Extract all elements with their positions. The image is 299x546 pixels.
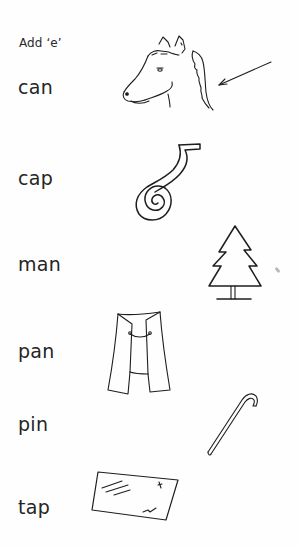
fir-tree-icon (199, 224, 269, 306)
word-pin: pin (18, 413, 48, 435)
worksheet-page: Add ‘e’ can (0, 0, 299, 546)
word-can: can (18, 76, 53, 98)
walking-cane-icon (200, 388, 270, 458)
glass-pane-icon (88, 470, 188, 528)
instruction-text: Add ‘e’ (19, 36, 62, 50)
cloak-icon (104, 310, 174, 400)
word-pan: pan (18, 340, 55, 362)
word-cap: cap (18, 167, 53, 189)
word-tap: tap (18, 496, 50, 518)
horse-head-icon (115, 34, 280, 114)
smudge-mark (274, 267, 280, 274)
word-man: man (18, 253, 61, 275)
coiled-tape-icon (125, 142, 205, 224)
